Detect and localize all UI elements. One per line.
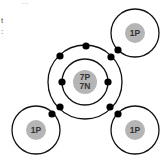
outer-electron: [106, 103, 113, 110]
clipped-left-text-2: :: [1, 27, 3, 36]
diagram-svg: 1P 1P 1P 7P 7N: [0, 0, 168, 168]
hydrogen-nucleus-label: 1P: [130, 28, 141, 38]
outer-electron: [82, 42, 89, 49]
clipped-left-text-1: t: [1, 16, 3, 25]
nitrogen-neutron-label: 7N: [80, 81, 91, 91]
outer-electron: [56, 103, 63, 110]
shared-electron: [114, 110, 121, 117]
inner-electron: [58, 78, 65, 85]
shared-electron: [48, 110, 55, 117]
outer-electron: [107, 53, 114, 60]
outer-electron: [56, 52, 63, 59]
clipped-caption-text: ...: [22, 0, 29, 6]
hydrogen-nucleus-label: 1P: [130, 125, 141, 135]
inner-electron: [104, 78, 111, 85]
hydrogen-nucleus-label: 1P: [31, 125, 42, 135]
ammonia-shell-diagram: ... t : 1P 1P 1P 7P 7N: [0, 0, 168, 168]
shared-electron: [114, 46, 121, 53]
